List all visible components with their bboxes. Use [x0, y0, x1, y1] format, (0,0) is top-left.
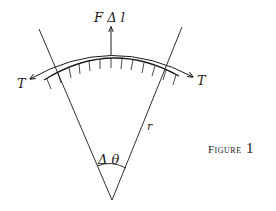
string-segment-diagram — [0, 0, 276, 211]
force-label: F Δ l — [94, 11, 125, 24]
right-radius-line — [112, 27, 182, 200]
radius-label: r — [147, 121, 152, 132]
tension-right-label: T — [197, 74, 206, 87]
figure-caption-number: 1 — [246, 140, 254, 156]
string-inner-arc — [44, 58, 179, 80]
figure-caption-word: Figure — [208, 143, 242, 155]
tension-left-label: T — [17, 77, 26, 90]
string-outer-arc — [30, 55, 193, 79]
left-radius-line — [39, 29, 112, 200]
angle-label: Δ θ — [98, 153, 119, 166]
figure-caption: Figure 1 — [208, 140, 254, 156]
